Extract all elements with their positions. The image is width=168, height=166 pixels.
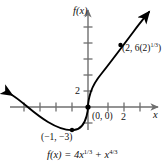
point-label-right-suffix: ): [158, 43, 161, 53]
function-graph-figure: f(x) x 2 2 (0, 0) (−1, −3) (2, 6(2)1/3) …: [0, 0, 168, 166]
equation-mid: + x: [92, 149, 109, 160]
point-label-right-prefix: (2, 6(2): [122, 43, 151, 53]
point-label-right: (2, 6(2)1/3): [122, 44, 161, 54]
curve-right-branch: [88, 12, 149, 107]
point-label-right-exponent: 1/3: [151, 42, 159, 48]
point-marker-origin: [85, 104, 90, 109]
y-axis-label: f(x): [73, 6, 88, 17]
x-axis-label: x: [153, 110, 158, 121]
curve-left-branch: [12, 95, 88, 130]
point-label-minimum: (−1, −3): [41, 133, 72, 143]
equation-lhs: f(x) = 4x: [47, 149, 84, 160]
point-label-origin: (0, 0): [92, 112, 113, 122]
function-equation-caption: f(x) = 4x1/3 + x4/3: [47, 150, 117, 161]
y-axis-tick-label-2: 2: [75, 86, 80, 96]
equation-exponent-2: 4/3: [109, 148, 117, 155]
plot-canvas: [0, 0, 168, 166]
x-axis-tick-label-2: 2: [121, 112, 126, 122]
equation-exponent-1: 1/3: [84, 148, 92, 155]
